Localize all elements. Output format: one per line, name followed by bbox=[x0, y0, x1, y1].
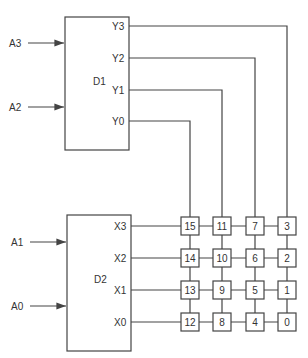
svg-text:12: 12 bbox=[184, 317, 196, 328]
svg-text:13: 13 bbox=[184, 285, 196, 296]
grid-column-wires bbox=[190, 217, 287, 322]
grid-cell: 15 bbox=[181, 217, 199, 235]
svg-text:0: 0 bbox=[284, 317, 290, 328]
output-y3-label: Y3 bbox=[112, 21, 125, 32]
grid-cell: 14 bbox=[181, 249, 199, 267]
grid-cell: 4 bbox=[246, 313, 264, 331]
svg-text:2: 2 bbox=[284, 253, 290, 264]
svg-text:6: 6 bbox=[252, 253, 258, 264]
grid-cell: 2 bbox=[278, 249, 296, 267]
svg-text:3: 3 bbox=[284, 221, 290, 232]
wire-y2 bbox=[129, 58, 255, 217]
input-a2-label: A2 bbox=[9, 102, 22, 113]
grid-cell: 5 bbox=[246, 281, 264, 299]
output-x1-label: X1 bbox=[114, 285, 127, 296]
input-a1-label: A1 bbox=[11, 237, 24, 248]
input-a0-label: A0 bbox=[11, 301, 24, 312]
svg-text:1: 1 bbox=[284, 285, 290, 296]
grid-row-wires bbox=[131, 226, 287, 322]
grid-cell: 9 bbox=[213, 281, 231, 299]
wire-y1 bbox=[129, 90, 222, 217]
grid-cell: 12 bbox=[181, 313, 199, 331]
output-x0-label: X0 bbox=[114, 317, 127, 328]
output-x3-label: X3 bbox=[114, 221, 127, 232]
decoder-d1: D1 A3 A2 Y3 Y2 Y1 Y0 bbox=[9, 17, 287, 217]
grid-cell: 10 bbox=[213, 249, 231, 267]
output-y1-label: Y1 bbox=[112, 85, 125, 96]
svg-text:7: 7 bbox=[252, 221, 258, 232]
wire-y0 bbox=[129, 121, 190, 217]
svg-text:15: 15 bbox=[184, 221, 196, 232]
grid-cell: 13 bbox=[181, 281, 199, 299]
output-x2-label: X2 bbox=[114, 253, 127, 264]
grid-cell: 11 bbox=[213, 217, 231, 235]
svg-text:9: 9 bbox=[219, 285, 225, 296]
grid-cell: 1 bbox=[278, 281, 296, 299]
grid-cell: 8 bbox=[213, 313, 231, 331]
decoder-d1-label: D1 bbox=[93, 76, 106, 87]
decoder-d2: D2 A1 A0 X3 X2 X1 X0 bbox=[11, 215, 131, 351]
svg-text:5: 5 bbox=[252, 285, 258, 296]
svg-text:11: 11 bbox=[217, 221, 228, 232]
decoder-d2-label: D2 bbox=[94, 274, 107, 285]
svg-text:4: 4 bbox=[252, 317, 258, 328]
svg-text:10: 10 bbox=[216, 253, 228, 264]
memory-cell-grid: 15 11 7 3 14 10 6 2 13 9 5 1 12 8 4 0 bbox=[181, 217, 296, 331]
grid-cell: 7 bbox=[246, 217, 264, 235]
output-y2-label: Y2 bbox=[112, 53, 125, 64]
decoder-matrix-diagram: D1 A3 A2 Y3 Y2 Y1 Y0 D2 A1 A0 X3 X2 X1 X… bbox=[0, 0, 308, 358]
input-a3-label: A3 bbox=[9, 38, 22, 49]
output-y0-label: Y0 bbox=[112, 116, 125, 127]
grid-cell: 3 bbox=[278, 217, 296, 235]
grid-cell: 6 bbox=[246, 249, 264, 267]
svg-text:14: 14 bbox=[184, 253, 196, 264]
svg-text:8: 8 bbox=[219, 317, 225, 328]
grid-cell: 0 bbox=[278, 313, 296, 331]
